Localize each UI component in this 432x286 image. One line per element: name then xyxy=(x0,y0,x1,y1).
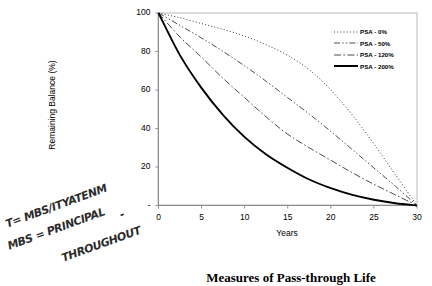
legend-item[interactable]: PSA - 50% xyxy=(334,38,426,50)
legend-label: PSA - 0% xyxy=(360,28,387,35)
figure-caption: Measures of Pass-through Life xyxy=(150,270,432,286)
x-axis-title: Years xyxy=(155,228,419,238)
chart-figure: Remaining Balance (%) Years -20406080100… xyxy=(0,0,432,286)
y-tick-label: 40 xyxy=(125,123,151,133)
handwritten-annotation: T= MBS/ITYATENM MBS = PRINCIPAL THROUGHO… xyxy=(0,178,150,286)
legend-item[interactable]: PSA - 200% xyxy=(334,61,426,73)
y-tick-label: 100 xyxy=(125,7,151,17)
x-tick-label: 20 xyxy=(320,212,342,222)
y-tick-label: 80 xyxy=(125,46,151,56)
chart-legend: PSA - 0%PSA - 50%PSA - 120%PSA - 200% xyxy=(334,26,426,72)
legend-label: PSA - 50% xyxy=(360,40,390,47)
y-tick-label: 20 xyxy=(125,161,151,171)
legend-line-sample xyxy=(334,39,358,47)
y-axis-title: Remaining Balance (%) xyxy=(47,10,57,200)
legend-label: PSA - 200% xyxy=(360,63,394,70)
legend-line-sample xyxy=(334,62,358,70)
legend-line-sample xyxy=(334,28,358,36)
x-tick-label: 25 xyxy=(363,212,385,222)
x-tick-label: 30 xyxy=(406,212,428,222)
legend-item[interactable]: PSA - 0% xyxy=(334,26,426,38)
legend-item[interactable]: PSA - 120% xyxy=(334,49,426,61)
y-tick-label: 60 xyxy=(125,84,151,94)
legend-line-sample xyxy=(334,51,358,59)
x-tick-label: 0 xyxy=(148,212,170,222)
x-tick-label: 5 xyxy=(191,212,213,222)
x-tick-label: 15 xyxy=(277,212,299,222)
legend-label: PSA - 120% xyxy=(360,51,394,58)
handwriting-dash: - xyxy=(118,208,127,222)
x-tick-label: 10 xyxy=(234,212,256,222)
